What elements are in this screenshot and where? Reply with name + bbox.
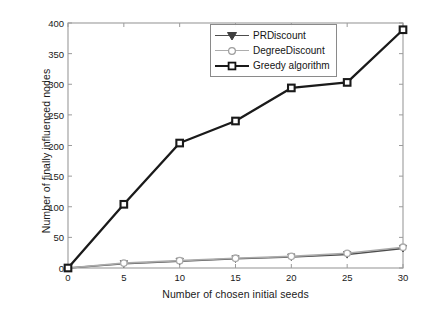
data-point-marker: [344, 79, 351, 86]
data-point-marker: [232, 255, 238, 261]
legend-label: Greedy algorithm: [249, 60, 330, 71]
data-point-marker: [121, 260, 127, 266]
chart-figure: Number of finally influenced nodes 0 50 …: [0, 0, 426, 316]
data-point-marker: [176, 257, 182, 263]
data-point-marker: [400, 244, 406, 250]
data-point-marker: [288, 85, 295, 92]
data-point-marker: [121, 201, 128, 208]
data-point-marker: [288, 253, 294, 259]
data-point-marker: [232, 118, 239, 125]
triangle-down-marker-icon: [215, 29, 249, 43]
legend-item-degreediscount: DegreeDiscount: [215, 43, 330, 58]
square-marker-icon: [215, 59, 249, 73]
legend-box: PRDiscount DegreeDiscount Greedy algorit…: [210, 24, 337, 77]
legend-label: PRDiscount: [249, 30, 306, 41]
legend-label: DegreeDiscount: [249, 45, 325, 56]
circle-marker-icon: [215, 44, 249, 58]
data-point-marker: [65, 265, 72, 272]
legend-item-prdiscount: PRDiscount: [215, 28, 330, 43]
data-point-marker: [400, 26, 407, 33]
legend-item-greedy-algorithm: Greedy algorithm: [215, 58, 330, 73]
data-point-marker: [176, 140, 183, 147]
data-point-marker: [344, 250, 350, 256]
